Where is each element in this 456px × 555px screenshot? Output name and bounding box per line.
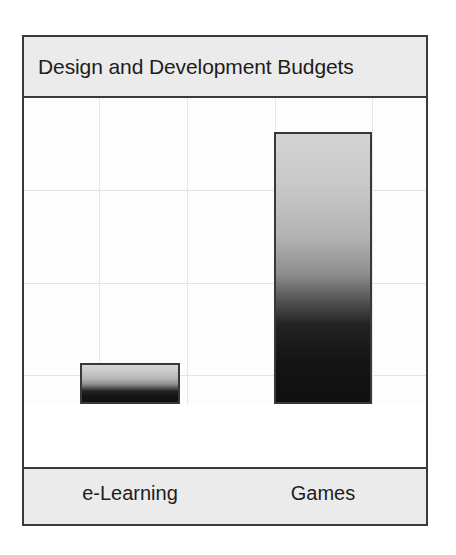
chart-title-band: Design and Development Budgets	[24, 37, 426, 98]
gridline-vertical	[99, 98, 100, 404]
category-axis-band: e-Learning Games	[24, 467, 426, 524]
bar-e-learning[interactable]	[80, 363, 180, 404]
plot-area	[24, 98, 426, 404]
chart-title: Design and Development Budgets	[24, 56, 354, 77]
gridline-vertical	[187, 98, 188, 404]
category-label-games: Games	[223, 483, 423, 503]
category-label-e-learning: e-Learning	[30, 483, 230, 503]
gridline-vertical	[372, 98, 373, 404]
bar-chart: Design and Development Budgets e-Learnin…	[22, 35, 428, 526]
bar-games[interactable]	[274, 132, 372, 404]
